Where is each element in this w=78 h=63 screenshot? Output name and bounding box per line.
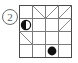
diagonal-r3c1-line (20, 32, 33, 45)
diagonal-r2c4-line (59, 19, 72, 32)
puzzle-figure: 2 (0, 0, 78, 63)
filled-circle (48, 47, 57, 56)
grid-svg (19, 5, 72, 58)
item-number-badge: 2 (2, 9, 18, 25)
diagonal-r1c2-line (33, 6, 46, 19)
grid-container (19, 5, 72, 58)
diagonal-r1c4-line (59, 6, 72, 19)
diagonal-r1c3-line (46, 6, 59, 19)
